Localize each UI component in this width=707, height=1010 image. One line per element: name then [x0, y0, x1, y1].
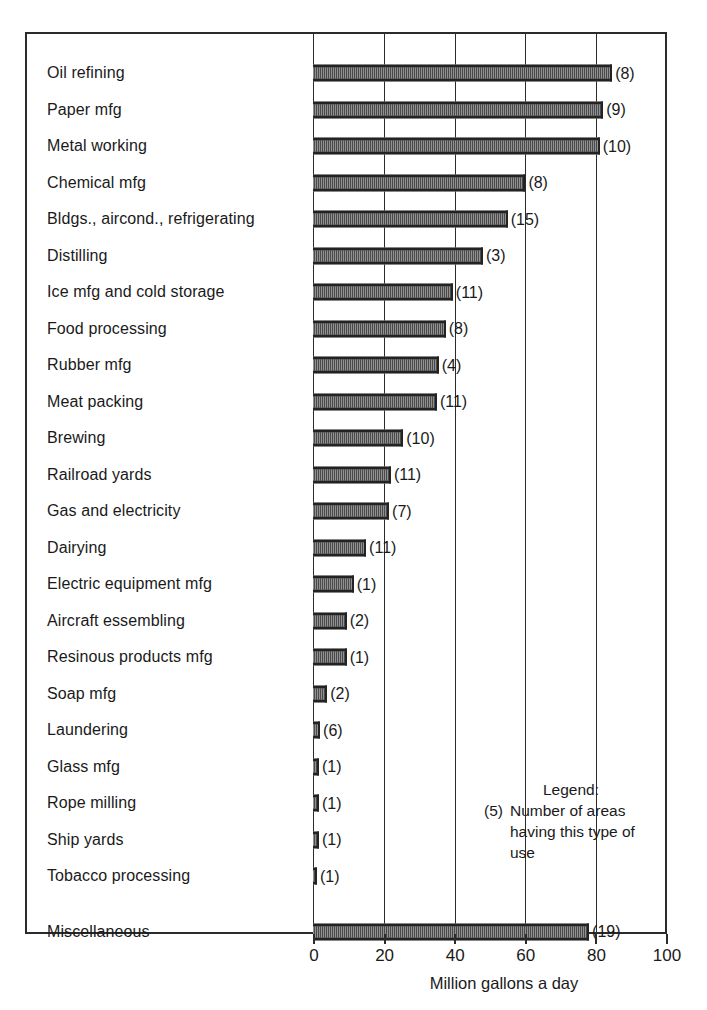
- category-label: Meat packing: [47, 393, 143, 411]
- bar-group: (4): [313, 357, 461, 374]
- category-label: Brewing: [47, 429, 106, 447]
- chart-row: Rubber mfg(4): [27, 347, 665, 384]
- category-label: Railroad yards: [47, 466, 152, 484]
- legend: Legend: (5) Number of areas having this …: [484, 779, 684, 863]
- x-axis: 020406080100 Million gallons a day: [25, 934, 667, 1010]
- bar: [313, 174, 525, 191]
- area-count-label: (1): [357, 576, 377, 592]
- x-tick: [454, 934, 456, 944]
- bar-group: (8): [313, 174, 548, 191]
- bar: [313, 430, 403, 447]
- chart-row: Oil refining(8): [27, 55, 665, 92]
- legend-key: (5): [484, 800, 503, 821]
- category-label: Bldgs., aircond., refrigerating: [47, 210, 255, 228]
- area-count-label: (8): [449, 321, 469, 337]
- category-label: Dairying: [47, 539, 107, 557]
- bar-chart-figure: Oil refining(8)Paper mfg(9)Metal working…: [0, 0, 707, 1010]
- bar-group: (2): [313, 612, 369, 629]
- bar: [313, 649, 347, 666]
- x-axis-title-text: Million gallons a day: [430, 974, 579, 993]
- bar: [313, 685, 327, 702]
- category-label: Rope milling: [47, 794, 136, 812]
- area-count-label: (11): [456, 284, 483, 300]
- area-count-label: (1): [322, 759, 342, 775]
- area-count-label: (4): [442, 357, 462, 373]
- bar: [313, 576, 354, 593]
- bar-group: (3): [313, 247, 505, 264]
- chart-row: Gas and electricity(7): [27, 493, 665, 530]
- chart-row: Brewing(10): [27, 420, 665, 457]
- bar: [313, 247, 483, 264]
- chart-row: Electric equipment mfg(1): [27, 566, 665, 603]
- category-label: Ice mfg and cold storage: [47, 283, 225, 301]
- category-label: Tobacco processing: [47, 867, 190, 885]
- bar-group: (2): [313, 685, 350, 702]
- bar-group: (1): [313, 831, 342, 848]
- chart-row: Railroad yards(11): [27, 457, 665, 494]
- area-count-label: (1): [322, 795, 342, 811]
- category-label: Ship yards: [47, 831, 124, 849]
- area-count-label: (2): [350, 613, 370, 629]
- bar-group: (15): [313, 211, 539, 228]
- bar: [313, 868, 317, 885]
- area-count-label: (3): [486, 248, 506, 264]
- category-label: Laundering: [47, 721, 128, 739]
- bar: [313, 722, 320, 739]
- chart-row: Food processing(8): [27, 311, 665, 348]
- bar: [313, 320, 446, 337]
- bar-group: (10): [313, 430, 435, 447]
- area-count-label: (2): [330, 686, 350, 702]
- category-label: Distilling: [47, 247, 108, 265]
- x-tick-label: 40: [446, 946, 465, 966]
- bar-group: (1): [313, 868, 340, 885]
- category-label: Paper mfg: [47, 101, 122, 119]
- area-count-label: (1): [350, 649, 370, 665]
- bar-group: (9): [313, 101, 626, 118]
- category-label: Rubber mfg: [47, 356, 132, 374]
- chart-row: Bldgs., aircond., refrigerating(15): [27, 201, 665, 238]
- x-tick: [313, 934, 315, 944]
- bar: [313, 795, 319, 812]
- area-count-label: (11): [440, 394, 467, 410]
- area-count-label: (1): [320, 868, 340, 884]
- category-label: Food processing: [47, 320, 167, 338]
- area-count-label: (6): [323, 722, 343, 738]
- bar-group: (1): [313, 576, 376, 593]
- chart-row: Meat packing(11): [27, 384, 665, 421]
- chart-row: Paper mfg(9): [27, 92, 665, 129]
- area-count-label: (10): [406, 430, 434, 446]
- category-label: Gas and electricity: [47, 502, 181, 520]
- bar: [313, 393, 437, 410]
- chart-row: Aircraft essembling(2): [27, 603, 665, 640]
- bar-group: (1): [313, 795, 342, 812]
- x-tick: [384, 934, 386, 944]
- bar-group: (8): [313, 65, 635, 82]
- bar: [313, 831, 319, 848]
- area-count-label: (10): [603, 138, 631, 154]
- bar-group: (6): [313, 722, 343, 739]
- bar-group: (11): [313, 284, 483, 301]
- bar: [313, 65, 612, 82]
- chart-row: Tobacco processing(1): [27, 858, 665, 895]
- legend-description: Number of areas having this type of use: [510, 800, 642, 863]
- legend-title: Legend:: [543, 779, 684, 800]
- area-count-label: (9): [606, 102, 626, 118]
- category-label: Soap mfg: [47, 685, 116, 703]
- bar: [313, 539, 366, 556]
- bar: [313, 758, 319, 775]
- x-tick: [666, 934, 668, 944]
- bar: [313, 211, 508, 228]
- x-tick-label: 0: [309, 946, 318, 966]
- area-count-label: (8): [528, 175, 548, 191]
- bar: [313, 466, 391, 483]
- bar: [313, 101, 603, 118]
- x-tick: [525, 934, 527, 944]
- chart-row: Laundering(6): [27, 712, 665, 749]
- x-tick: [595, 934, 597, 944]
- area-count-label: (11): [369, 540, 396, 556]
- category-label: Chemical mfg: [47, 174, 146, 192]
- x-tick-label: 20: [375, 946, 394, 966]
- bar: [313, 357, 439, 374]
- chart-row: Chemical mfg(8): [27, 165, 665, 202]
- x-tick-label: 100: [653, 946, 681, 966]
